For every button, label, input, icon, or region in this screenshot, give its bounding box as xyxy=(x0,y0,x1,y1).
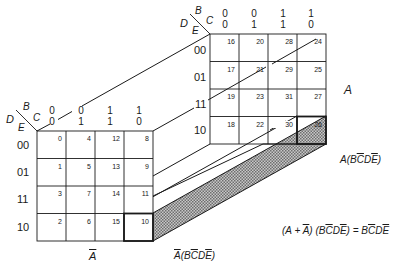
front-row-header: 00 xyxy=(17,140,29,151)
back-cell: 20 xyxy=(244,38,264,45)
front-cell: 7 xyxy=(71,190,91,197)
shaded-prism xyxy=(124,116,326,241)
front-cell: 1 xyxy=(42,163,62,170)
back-axis-label-c: C xyxy=(206,16,213,26)
back-cell-highlighted: 26 xyxy=(302,121,322,128)
front-cell: 11 xyxy=(129,190,149,197)
back-cell: 23 xyxy=(244,93,264,100)
back-map-variable-label: A xyxy=(344,84,352,96)
back-col-header-b: 0 xyxy=(220,9,230,19)
front-col-header-c: 0 xyxy=(47,117,57,127)
front-row-header: 01 xyxy=(17,167,29,178)
front-cell: 14 xyxy=(100,190,120,197)
front-axis-label-e: E xyxy=(18,123,25,133)
front-col-header-b: 0 xyxy=(47,106,57,116)
annotation-equation: (A + A) (BCDE) = BCDE xyxy=(282,226,389,236)
front-col-header-c: 0 xyxy=(134,117,144,127)
front-axis-label-b: B xyxy=(23,102,30,112)
front-axis-label-c: C xyxy=(33,113,40,123)
front-cell: 13 xyxy=(100,163,120,170)
back-cell: 27 xyxy=(302,93,322,100)
front-cell: 12 xyxy=(100,135,120,142)
back-axis-label-b: B xyxy=(195,6,202,16)
back-row-header: 00 xyxy=(194,45,206,56)
back-cell: 19 xyxy=(215,93,235,100)
back-cell: 24 xyxy=(302,38,322,45)
back-cell: 31 xyxy=(273,93,293,100)
back-cell: 28 xyxy=(273,38,293,45)
back-cell: 22 xyxy=(244,121,264,128)
front-cell: 8 xyxy=(129,135,149,142)
front-cell: 0 xyxy=(42,135,62,142)
back-col-header-c: 0 xyxy=(306,20,316,30)
front-axis-label-d: D xyxy=(6,114,14,125)
front-cell: 5 xyxy=(71,163,91,170)
back-cell: 30 xyxy=(273,121,293,128)
front-col-header-c: 1 xyxy=(105,117,115,127)
back-row-header: 10 xyxy=(194,125,206,136)
front-cell: 4 xyxy=(71,135,91,142)
back-row-header: 11 xyxy=(195,99,206,110)
back-cell: 29 xyxy=(273,66,293,73)
front-row-header: 10 xyxy=(17,222,29,233)
front-cell: 3 xyxy=(42,190,62,197)
back-cell: 18 xyxy=(215,121,235,128)
front-col-header-b: 0 xyxy=(76,106,86,116)
back-row-header: 01 xyxy=(194,72,206,83)
front-map-variable-label: A xyxy=(89,251,96,262)
back-col-header-c: 1 xyxy=(249,20,259,30)
back-axis-label-e: E xyxy=(192,26,199,36)
front-col-header-c: 1 xyxy=(76,117,86,127)
back-col-header-b: 0 xyxy=(249,9,259,19)
back-cell: 16 xyxy=(215,38,235,45)
abar-prefix: A xyxy=(174,250,181,261)
annotation-back-term: A(BCDE) xyxy=(340,155,381,165)
front-col-header-b: 1 xyxy=(134,106,144,116)
annotation-front-term: A(BCDE) xyxy=(174,251,215,261)
front-cell: 2 xyxy=(42,218,62,225)
back-col-header-c: 0 xyxy=(220,20,230,30)
front-cell: 9 xyxy=(129,163,149,170)
front-row-header: 11 xyxy=(17,194,28,205)
back-cell: 17 xyxy=(215,66,235,73)
back-cell: 21 xyxy=(244,66,264,73)
back-col-header-c: 1 xyxy=(278,20,288,30)
front-cell: 6 xyxy=(71,218,91,225)
front-col-header-b: 1 xyxy=(105,106,115,116)
back-col-header-b: 1 xyxy=(278,9,288,19)
front-cell-highlighted: 10 xyxy=(129,218,149,225)
back-axis-label-d: D xyxy=(180,18,188,29)
back-col-header-b: 1 xyxy=(306,9,316,19)
front-cell: 15 xyxy=(100,218,120,225)
back-cell: 25 xyxy=(302,66,322,73)
